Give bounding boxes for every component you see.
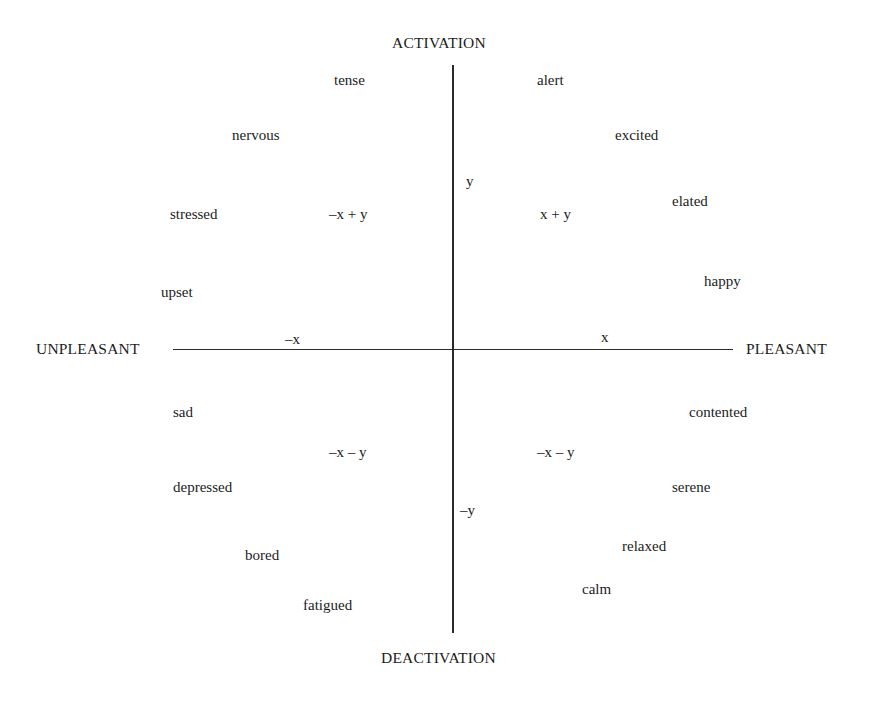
affect-word-calm: calm <box>582 580 611 598</box>
affect-word-depressed: depressed <box>173 478 232 496</box>
pole-label-pleasant: PLEASANT <box>746 340 827 358</box>
pole-label-activation: ACTIVATION <box>392 34 486 52</box>
affect-word-nervous: nervous <box>232 126 280 144</box>
quadrant-label-upper-right: x + y <box>540 205 571 223</box>
affect-word-alert: alert <box>537 71 564 89</box>
axis-symbol-neg-y: –y <box>460 501 475 519</box>
affect-word-excited: excited <box>615 126 658 144</box>
affect-word-upset: upset <box>161 283 193 301</box>
axis-symbol-x: x <box>601 328 609 346</box>
affect-word-contented: contented <box>689 403 747 421</box>
affect-word-elated: elated <box>672 192 708 210</box>
affect-word-bored: bored <box>245 546 279 564</box>
axis-symbol-y: y <box>466 172 474 190</box>
quadrant-label-lower-right: –x – y <box>537 443 575 461</box>
pole-label-unpleasant: UNPLEASANT <box>36 340 140 358</box>
axis-symbol-neg-x: –x <box>285 330 300 348</box>
affect-word-stressed: stressed <box>170 205 218 223</box>
horizontal-axis-line <box>173 349 733 351</box>
affect-word-sad: sad <box>173 403 193 421</box>
affect-word-fatigued: fatigued <box>303 596 352 614</box>
affect-circumplex-diagram: ACTIVATION DEACTIVATION UNPLEASANT PLEAS… <box>0 0 883 701</box>
pole-label-deactivation: DEACTIVATION <box>381 649 496 667</box>
affect-word-relaxed: relaxed <box>622 537 666 555</box>
affect-word-serene: serene <box>672 478 710 496</box>
quadrant-label-upper-left: –x + y <box>329 205 367 223</box>
affect-word-happy: happy <box>704 272 741 290</box>
quadrant-label-lower-left: –x – y <box>329 443 367 461</box>
affect-word-tense: tense <box>334 71 365 89</box>
